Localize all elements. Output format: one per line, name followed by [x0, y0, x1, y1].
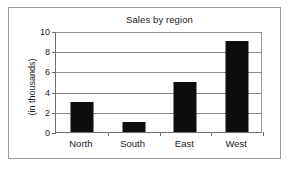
y-tick-mark	[52, 72, 56, 73]
chart-figure: Sales by region (in thousands) 0246810 N…	[0, 0, 290, 173]
y-tick-label: 4	[45, 88, 50, 98]
x-tick-mark	[263, 132, 264, 136]
y-tick-label: 2	[45, 108, 50, 118]
plot-area: 0246810	[55, 32, 262, 133]
y-tick-label: 10	[40, 27, 50, 37]
y-tick-label: 6	[45, 67, 50, 77]
bar	[226, 41, 249, 132]
x-tick-mark	[211, 132, 212, 136]
x-tick-mark	[160, 132, 161, 136]
y-tick-mark	[52, 93, 56, 94]
y-tick-label: 0	[45, 128, 50, 138]
gridline	[56, 32, 261, 33]
x-tick-label: South	[120, 138, 145, 149]
y-tick-mark	[52, 113, 56, 114]
y-tick-mark	[52, 32, 56, 33]
bar	[122, 122, 145, 132]
x-tick-label: West	[225, 138, 246, 149]
y-tick-label: 8	[45, 47, 50, 57]
bar	[174, 82, 197, 133]
x-tick-label: East	[175, 138, 194, 149]
x-tick-label: North	[69, 138, 92, 149]
y-tick-mark	[52, 133, 56, 134]
y-axis-label: (in thousands)	[27, 42, 37, 132]
x-tick-mark	[108, 132, 109, 136]
chart-title: Sales by region	[56, 14, 263, 25]
y-tick-mark	[52, 52, 56, 53]
bar	[70, 102, 93, 132]
